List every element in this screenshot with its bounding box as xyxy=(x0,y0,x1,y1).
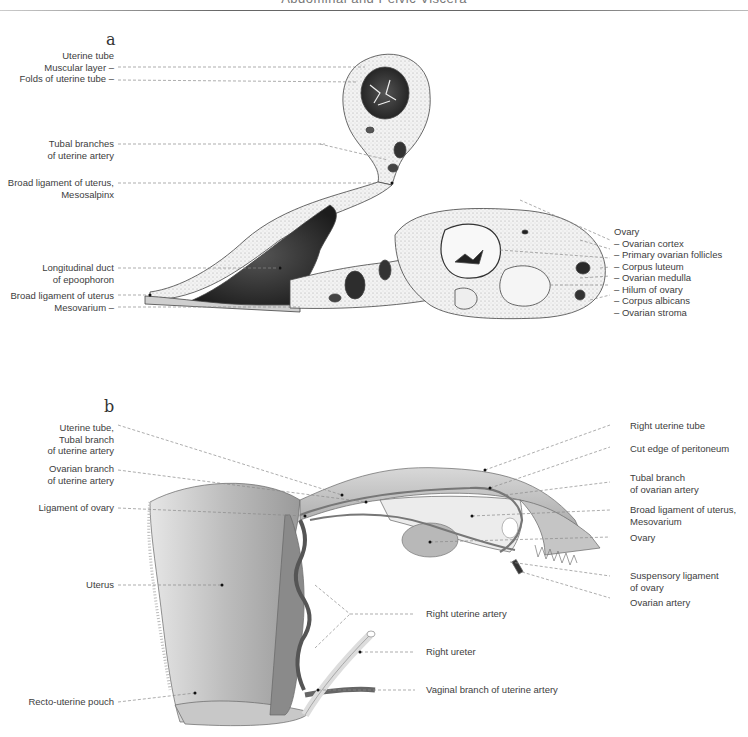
label-ovary-b: Ovary xyxy=(630,532,655,544)
anatomy-illustration xyxy=(0,0,748,737)
label-suspensory-ligament: Suspensory ligament of ovary xyxy=(630,570,719,593)
label-right-ureter: Right ureter xyxy=(426,646,476,658)
label-right-uterine-tube: Right uterine tube xyxy=(630,420,705,432)
label-recto-uterine-pouch: Recto-uterine pouch xyxy=(28,696,114,708)
label-ovarian-artery: Ovarian artery xyxy=(630,597,690,609)
label-mesovarium-a: Broad ligament of uterus Mesovarium – xyxy=(10,290,114,313)
label-ligament-of-ovary: Ligament of ovary xyxy=(38,502,114,514)
panel-b-letter: b xyxy=(104,397,114,416)
label-vaginal-branch: Vaginal branch of uterine artery xyxy=(426,684,558,696)
label-epoophoron: Longitudinal duct of epoophoron xyxy=(42,262,114,285)
label-right-uterine-artery: Right uterine artery xyxy=(426,608,507,620)
label-broad-ligament-mesovarium: Broad ligament of uterus, Mesovarium xyxy=(630,504,736,527)
label-ovarian-branch: Ovarian branch of uterine artery xyxy=(47,463,114,486)
label-uterus: Uterus xyxy=(86,579,114,591)
label-ovary-list: Ovary – Ovarian cortex – Primary ovarian… xyxy=(614,226,722,318)
label-cut-edge-peritoneum: Cut edge of peritoneum xyxy=(630,443,729,455)
label-uterine-tube-tubal-branch: Uterine tube, Tubal branch of uterine ar… xyxy=(47,422,114,457)
panel-a-section xyxy=(145,54,605,318)
label-tubal-branches: Tubal branches of uterine artery xyxy=(47,138,114,161)
label-uterine-tube: Uterine tube Muscular layer – Folds of u… xyxy=(19,50,114,85)
ovary-heading: Ovary xyxy=(614,226,722,238)
label-tubal-branch-ovarian: Tubal branch of ovarian artery xyxy=(630,472,699,495)
panel-a-letter: a xyxy=(106,30,116,49)
label-mesosalpinx: Broad ligament of uterus, Mesosalpinx xyxy=(8,177,114,200)
